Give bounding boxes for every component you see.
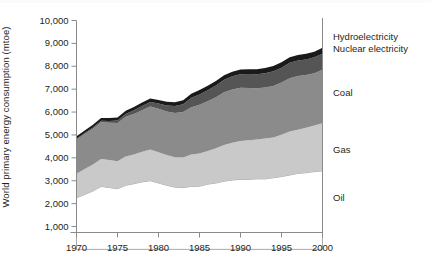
legend-label-nuclear-electricity: Nuclear electricity [333,43,408,54]
legend-label-gas: Gas [333,144,350,155]
x-axis-tick-label: 1975 [98,242,138,253]
legend-label-hydroelectricity: Hydroelectricity [333,31,398,42]
x-axis-tick-label: 1990 [221,242,261,253]
y-axis-tick-label: 4,000 [25,152,69,163]
y-axis-tick-label: 8,000 [25,60,69,71]
legend-label-oil: Oil [333,192,345,203]
legend-label-coal: Coal [333,87,353,98]
x-axis-tick-label: 1970 [57,242,97,253]
y-axis-tick-label: 10,000 [25,15,69,26]
y-axis-tick-label: 5,000 [25,129,69,140]
y-axis-tick-label: 3,000 [25,175,69,186]
x-axis-tick-label: 2000 [303,242,343,253]
y-axis-tick-label: 7,000 [25,83,69,94]
x-axis-tick-label: 1995 [262,242,302,253]
x-axis-tick-label: 1980 [139,242,179,253]
y-axis-tick-label: 2,000 [25,198,69,209]
y-axis-title: World primary energy consumption (mtoe) [0,0,18,250]
stacked-area-chart-figure: World primary energy consumption (mtoe) … [0,0,431,266]
x-axis-tick-label: 1985 [180,242,220,253]
page-top-bleed [0,0,431,3]
y-axis-tick-label: 1,000 [25,221,69,232]
y-axis-tick-label: 6,000 [25,106,69,117]
y-axis-tick-label: 9,000 [25,37,69,48]
